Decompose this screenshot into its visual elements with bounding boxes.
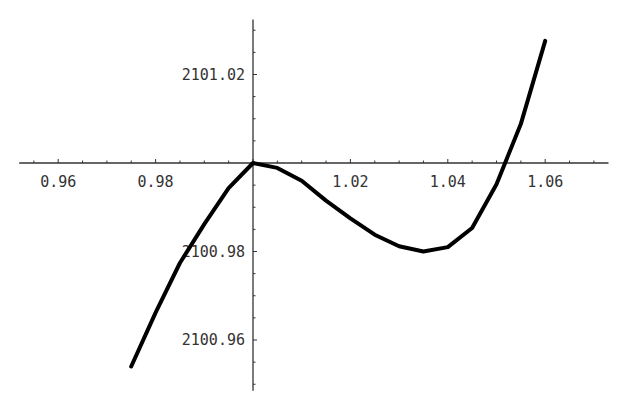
data-curve (131, 41, 545, 367)
axes (19, 19, 608, 390)
x-tick-label: 1.02 (332, 173, 368, 191)
x-tick-label: 0.96 (40, 173, 76, 191)
x-tick-label: 0.98 (138, 173, 174, 191)
ticks (34, 30, 594, 384)
y-tick-label: 2101.02 (182, 66, 245, 84)
cubic-plot: 0.960.981.021.041.062101.022100.982100.9… (0, 0, 641, 411)
y-tick-label: 2100.96 (182, 331, 245, 349)
x-tick-label: 1.04 (430, 173, 466, 191)
x-tick-label: 1.06 (527, 173, 563, 191)
